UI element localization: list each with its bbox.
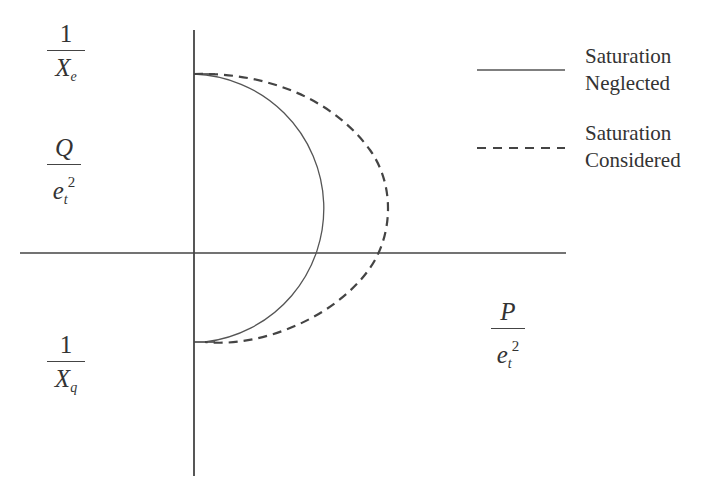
label-q-den: et2 xyxy=(47,168,81,214)
label-q-num: Q xyxy=(47,134,81,162)
label-q-over-et2: Q et2 xyxy=(47,134,81,214)
label-one-over-xq-num: 1 xyxy=(47,331,85,359)
label-one-over-xe-den: Xe xyxy=(47,54,85,91)
legend-considered-line2: Considered xyxy=(585,147,681,174)
label-one-over-xe: 1 Xe xyxy=(47,20,85,91)
legend-neglected-line1: Saturation xyxy=(585,43,671,70)
fraction-bar xyxy=(47,50,85,51)
label-one-over-xq: 1 Xq xyxy=(47,331,85,402)
fraction-bar xyxy=(47,164,81,165)
curve-saturation-considered xyxy=(194,74,388,343)
legend-label-considered: Saturation Considered xyxy=(585,120,681,174)
fraction-bar xyxy=(491,328,525,329)
label-p-num: P xyxy=(491,298,525,326)
legend-neglected-line2: Neglected xyxy=(585,70,671,97)
legend-considered-line1: Saturation xyxy=(585,120,681,147)
label-p-over-et2: P et2 xyxy=(491,298,525,378)
fraction-bar xyxy=(47,361,85,362)
label-p-den: et2 xyxy=(491,332,525,378)
legend-label-neglected: Saturation Neglected xyxy=(585,43,671,97)
label-one-over-xq-den: Xq xyxy=(47,365,85,402)
label-one-over-xe-num: 1 xyxy=(47,20,85,48)
curve-saturation-neglected xyxy=(194,74,324,342)
